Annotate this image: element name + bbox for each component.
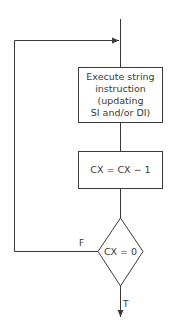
execute-line-4: SI and/or DI) — [91, 107, 151, 118]
test-text: CX = 0 — [104, 246, 137, 257]
true-branch-label: T — [122, 299, 129, 309]
test-node: CX = 0 — [98, 218, 143, 286]
decrement-text: CX = CX − 1 — [90, 164, 150, 175]
execute-line-2: instruction — [95, 83, 146, 94]
decrement-node: CX = CX − 1 — [79, 152, 163, 189]
false-branch-label: F — [79, 238, 84, 248]
execute-line-1: Execute string — [86, 71, 154, 82]
execute-line-3: (updating — [97, 95, 143, 106]
string-repeat-flowchart: Execute string instruction (updating SI … — [0, 0, 174, 331]
execute-instruction-node: Execute string instruction (updating SI … — [79, 68, 163, 123]
